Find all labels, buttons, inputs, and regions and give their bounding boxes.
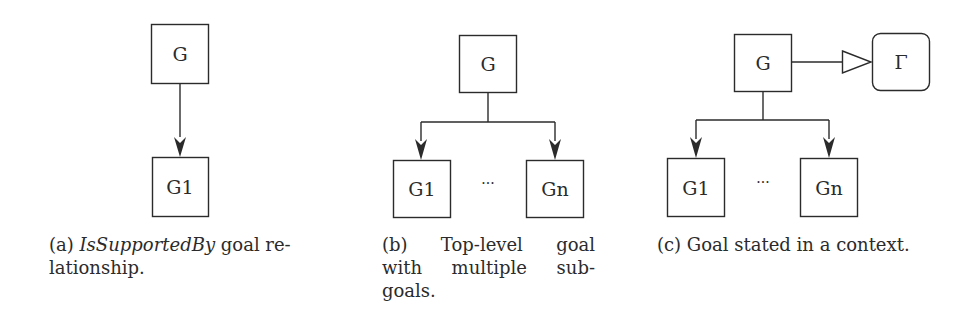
- panel-c: G Γ G1 ··· Gn: [668, 34, 930, 217]
- caption-a-prefix: (a): [49, 234, 80, 255]
- goal-node-g1-label: G1: [166, 176, 193, 198]
- ellipsis: ···: [756, 174, 769, 190]
- caption-c-line-1: (c) Goal stated in a context.: [657, 233, 957, 256]
- caption-a-line-1: (a) IsSupportedBy goal re-: [49, 233, 324, 256]
- caption-c: (c) Goal stated in a context.: [657, 233, 957, 256]
- caption-b-line-2: with multiple sub-: [382, 256, 595, 279]
- hollow-arrowhead-icon: [843, 51, 872, 73]
- goal-node-g1-label: G1: [408, 178, 435, 200]
- caption-b: (b) Top-level goal with multiple sub- go…: [382, 233, 595, 302]
- caption-a-rest: goal re-: [215, 234, 291, 255]
- arrowhead-icon: [690, 137, 702, 158]
- caption-b-line-3: goals.: [382, 279, 595, 302]
- arrowhead-icon: [823, 137, 835, 158]
- caption-b-line-1: (b) Top-level goal: [382, 233, 595, 256]
- goal-node-gn-label: Gn: [815, 177, 842, 199]
- goal-node-g1-label: G1: [682, 177, 709, 199]
- caption-a-emphasis: IsSupportedBy: [80, 234, 216, 255]
- arrowhead-icon: [549, 139, 561, 160]
- goal-node-g-label: G: [172, 43, 187, 65]
- caption-a: (a) IsSupportedBy goal re- lationship.: [49, 233, 324, 279]
- context-node-label: Γ: [894, 51, 907, 73]
- goal-node-g-label: G: [480, 53, 495, 75]
- ellipsis: ···: [481, 175, 494, 191]
- goal-node-g-label: G: [755, 52, 770, 74]
- arrowhead-icon: [415, 139, 427, 160]
- goal-node-gn-label: Gn: [541, 178, 568, 200]
- arrowhead-icon: [174, 137, 186, 157]
- panel-a: G G1: [152, 25, 209, 217]
- panel-b: G G1 ··· Gn: [394, 36, 584, 218]
- caption-a-line-2: lationship.: [49, 256, 324, 279]
